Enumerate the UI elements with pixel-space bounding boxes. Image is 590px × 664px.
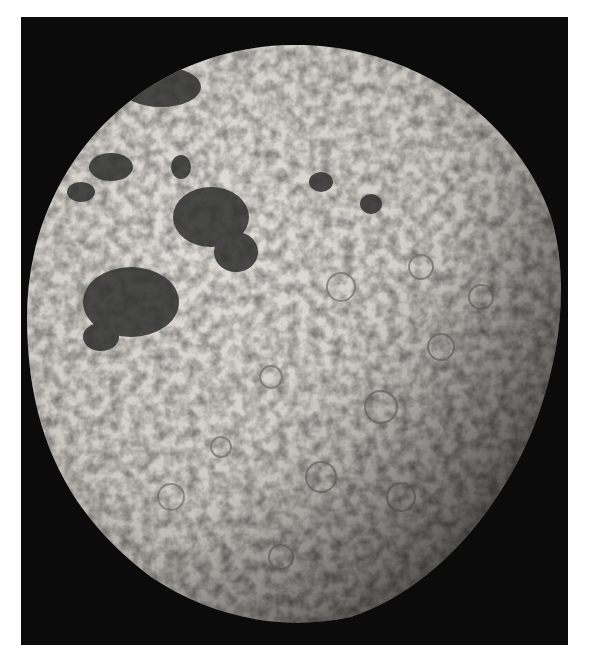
moon-disc xyxy=(21,17,568,645)
space-background xyxy=(21,17,568,645)
moon-image xyxy=(21,17,568,645)
